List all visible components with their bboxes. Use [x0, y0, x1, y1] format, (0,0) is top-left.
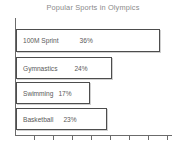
plot-area: 100M Sprint 36% Gymnastics 24% Swimming … [0, 0, 186, 150]
x-axis-tick [34, 136, 35, 140]
x-axis-tick [167, 136, 168, 140]
bar-content: Basketball 23% [17, 109, 106, 129]
bar-swimming[interactable]: Swimming 17% [16, 82, 90, 104]
bar-content: Gymnastics 24% [17, 58, 111, 78]
x-axis-tick [72, 136, 73, 140]
bar-content: Swimming 17% [17, 83, 89, 103]
x-axis-tick [53, 136, 54, 140]
bar-value: 23% [63, 116, 76, 123]
x-axis-tick [129, 136, 130, 140]
bar-label: 100M Sprint [23, 37, 59, 44]
bar-label: Swimming [23, 90, 53, 97]
bar-basketball[interactable]: Basketball 23% [16, 108, 107, 130]
x-axis-tick [91, 136, 92, 140]
bar-content: 100M Sprint 36% [17, 30, 159, 51]
x-axis-tick [110, 136, 111, 140]
bar-value: 24% [74, 65, 87, 72]
bar-label: Gymnastics [23, 65, 57, 72]
bar-gymnastics[interactable]: Gymnastics 24% [16, 57, 112, 79]
bar-value: 17% [58, 90, 71, 97]
bar-value: 36% [80, 37, 93, 44]
bar-label: Basketball [23, 116, 53, 123]
bar-chart: Popular Sports in Olympics 100M Sprint 3… [0, 0, 186, 150]
x-axis-tick [148, 136, 149, 140]
bar-100m-sprint[interactable]: 100M Sprint 36% [16, 29, 160, 52]
